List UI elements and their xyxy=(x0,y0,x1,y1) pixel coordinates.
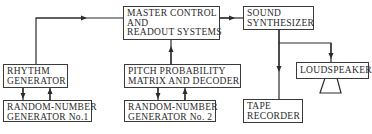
speaker-cone-icon xyxy=(320,78,341,93)
random-number-generator-2-box: RANDOM-NUMBER GENERATOR No. 2 xyxy=(124,100,216,122)
master-control-box: MASTER CONTROL AND READOUT SYSTEMS xyxy=(123,6,220,40)
rng2-line-2: GENERATOR No. 2 xyxy=(128,113,215,123)
edge-synth-to-speaker xyxy=(279,43,331,62)
speaker-label: LOUDSPEAKER xyxy=(300,66,368,76)
tape-recorder-box: TAPE RECORDER xyxy=(243,99,303,123)
tape-line-2: RECORDER xyxy=(247,112,302,122)
rng1-line-2: GENERATOR No.1 xyxy=(7,113,91,123)
rhythm-generator-box: RHYTHM GENERATOR xyxy=(3,64,68,88)
pitch-probability-box: PITCH PROBABILITY MATRIX AND DECODER xyxy=(124,64,241,88)
sound-synthesizer-box: SOUND SYNTHESIZER xyxy=(243,6,314,30)
edge-rhythm-to-master xyxy=(36,18,124,64)
synth-line-2: SYNTHESIZER xyxy=(247,19,313,29)
loudspeaker-box: LOUDSPEAKER xyxy=(296,62,369,79)
pitch-line-2: MATRIX AND DECODER xyxy=(128,77,240,87)
master-line-3: READOUT SYSTEMS xyxy=(127,28,219,38)
random-number-generator-1-box: RANDOM-NUMBER GENERATOR No.1 xyxy=(3,100,92,122)
rhythm-line-2: GENERATOR xyxy=(7,77,67,87)
